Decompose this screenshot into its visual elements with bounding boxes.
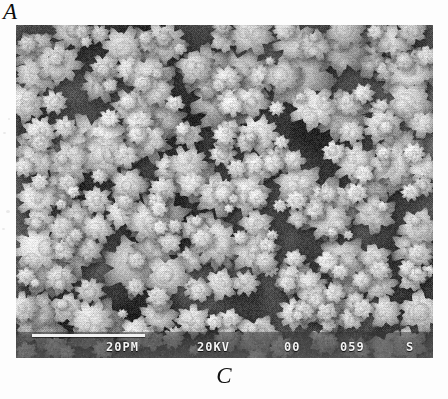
scan-artifact [2,228,5,230]
scan-artifact [6,210,10,213]
micrograph-canvas [16,25,433,358]
scalebar-mode-label: S [406,340,414,354]
scalebar-overlay: 20PM 20KV 00 059 S [16,332,433,358]
scalebar-serial-label: 059 [340,340,365,354]
scalebar-code-label: 00 [284,340,300,354]
scalebar-voltage-label: 20KV [197,340,230,354]
scan-artifact [8,118,10,120]
scalebar-magnification-label: 20PM [106,340,139,354]
sem-micrograph-image: 20PM 20KV 00 059 S [16,25,433,358]
scan-artifact [3,132,6,134]
panel-letter-a: A [3,0,17,25]
figure-panel: A 20PM 20KV 00 059 S C [0,0,448,399]
scalebar-line [32,334,145,337]
figure-caption: C [0,362,448,390]
